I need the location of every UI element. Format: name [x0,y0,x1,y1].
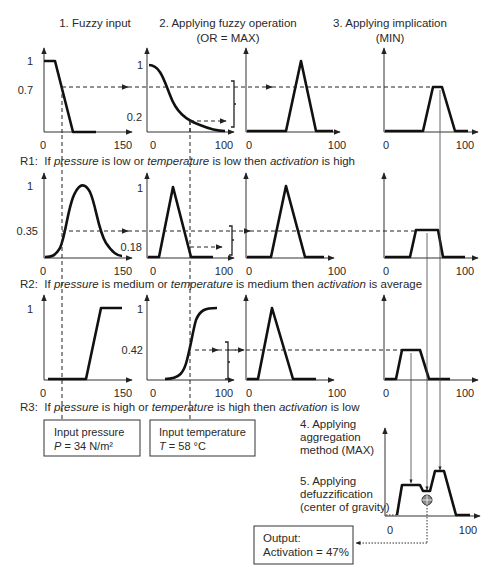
svg-text:method (MAX): method (MAX) [300,444,374,456]
svg-text:1: 1 [27,180,33,192]
svg-text:0: 0 [150,265,156,277]
svg-text:0: 0 [150,139,156,151]
input-temperature-value: T = 58 °C [159,440,206,452]
r1-activation-chart: 0 100 [246,48,346,151]
svg-text:1: 1 [137,59,143,71]
svg-text:100: 100 [459,524,477,536]
header-implication-sub: (MIN) [376,32,405,44]
r1-implication-chart: 0 100 [383,48,478,151]
svg-text:0: 0 [383,265,389,277]
fuzzy-inference-diagram: 1. Fuzzy input 2. Applying fuzzy operati… [0,0,499,580]
crosshair-circle-icon [422,495,432,505]
svg-text:1: 1 [27,303,33,315]
svg-text:Input pressure: Input pressure [54,426,124,438]
svg-text:0: 0 [383,139,389,151]
r3-temperature-chart: 1 0.42 0 100 [122,295,234,399]
svg-text:100: 100 [328,265,346,277]
rule3-row: 1 0 150 1 0.42 0 100 0 100 0 100 [27,295,478,399]
svg-text:1: 1 [137,182,143,194]
svg-text:Input temperature: Input temperature [159,426,246,438]
svg-text:150: 150 [114,387,132,399]
r1-pressure-chart: 1 0.7 0 150 [18,48,132,151]
r2-pressure-membership: 0.35 [17,225,38,237]
output-activation-value: Activation = 47% [263,546,349,558]
input-pressure-box: Input pressure P = 34 N/m² [44,420,140,456]
r2-pressure-chart: 1 0.35 0 150 [17,173,133,277]
svg-text:(center of gravity): (center of gravity) [300,501,390,513]
header-implication: 3. Applying implication [333,17,447,29]
aggregation-chart: 0 100 [356,428,480,543]
svg-text:100: 100 [215,265,233,277]
svg-text:5. Applying: 5. Applying [300,475,356,487]
svg-text:0: 0 [246,387,252,399]
r1-temperature-chart: 1 0.2 0 100 [127,48,234,151]
header-fuzzy-input: 1. Fuzzy input [59,17,131,29]
r1-temperature-membership: 0.2 [127,111,142,123]
svg-text:100: 100 [215,387,233,399]
svg-text:4. Applying: 4. Applying [300,418,356,430]
rule1-row: 1 0.7 0 150 1 0.2 0 100 0 100 0 [18,48,478,151]
svg-text:100: 100 [328,139,346,151]
svg-text:150: 150 [114,265,132,277]
r3-temperature-membership: 0.42 [122,344,143,356]
r2-activation-chart: 0 100 [246,173,346,277]
rule3-text: R3: If pressure is high or temperature i… [20,401,360,413]
rule2-row: 1 0.35 0 150 1 0.18 0 100 0 100 0 100 [17,173,478,277]
svg-text:Output:: Output: [263,532,301,544]
svg-text:0: 0 [40,387,46,399]
svg-text:0: 0 [383,387,389,399]
svg-text:100: 100 [456,387,474,399]
r2-temperature-membership: 0.18 [121,241,142,253]
r1-pressure-membership: 0.7 [18,84,33,96]
r3-activation-chart: 0 100 [246,295,346,399]
svg-text:0: 0 [150,387,156,399]
r3-implication-chart: 0 100 [383,295,478,399]
svg-text:150: 150 [114,139,132,151]
svg-text:0: 0 [387,524,393,536]
svg-text:100: 100 [215,139,233,151]
svg-text:1: 1 [137,303,143,315]
rule2-text: R2: If pressure is medium or temperature… [20,278,422,290]
output-box: Output: Activation = 47% [254,526,353,564]
svg-text:1: 1 [27,55,33,67]
r3-pressure-chart: 1 0 150 [27,295,132,399]
svg-text:defuzzification: defuzzification [300,488,373,500]
r2-implication-chart: 0 100 [383,173,478,277]
r2-temperature-chart: 1 0.18 0 100 [121,173,234,277]
svg-text:0: 0 [40,265,46,277]
svg-text:0: 0 [246,265,252,277]
svg-text:aggregation: aggregation [300,431,361,443]
svg-text:0: 0 [40,139,46,151]
svg-text:0: 0 [246,139,252,151]
svg-text:100: 100 [456,265,474,277]
svg-text:100: 100 [328,387,346,399]
header-fuzzy-operation: 2. Applying fuzzy operation [159,17,296,29]
rule1-text: R1: If pressure is low or temperature is… [20,155,355,167]
svg-text:100: 100 [456,139,474,151]
input-temperature-box: Input temperature T = 58 °C [150,420,255,456]
input-pressure-value: P = 34 N/m² [54,440,113,452]
header-fuzzy-operation-sub: (OR = MAX) [197,32,260,44]
